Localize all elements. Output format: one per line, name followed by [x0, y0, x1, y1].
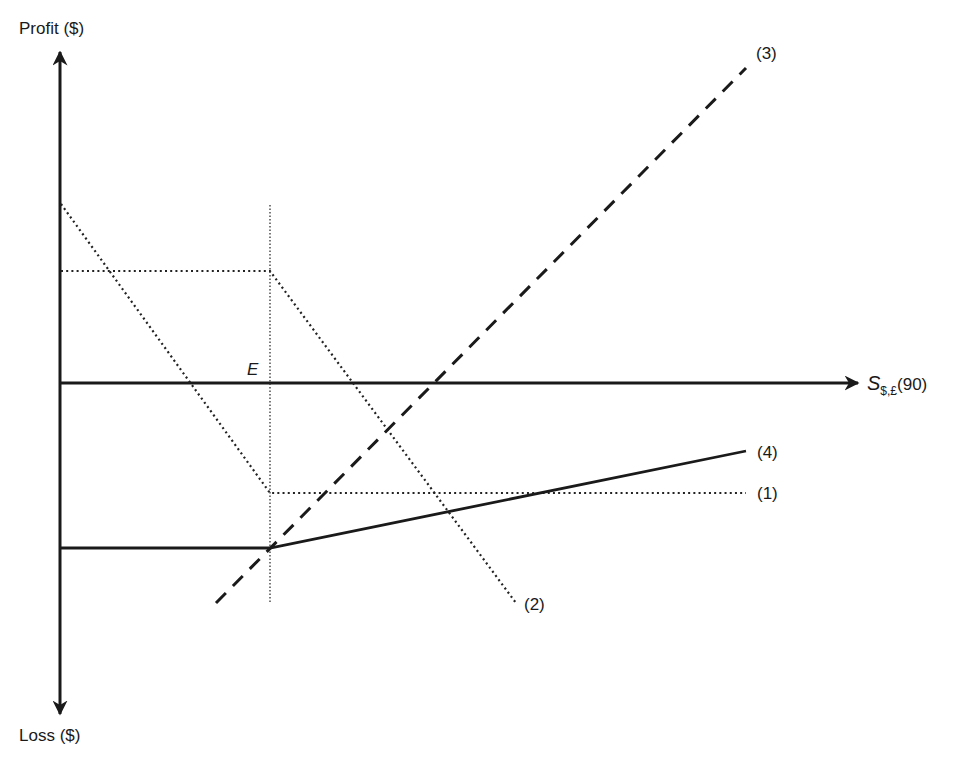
series-line-4 [61, 451, 746, 548]
series-label-2: (2) [524, 595, 545, 614]
x-axis-label-main: S [867, 372, 881, 394]
x-axis-label-suffix: (90) [897, 375, 927, 394]
y-axis-label-loss: Loss ($) [19, 726, 80, 745]
payoff-diagram: Profit ($) Loss ($) S$,£(90) E (3) (4) (… [0, 0, 957, 768]
series-line-2 [61, 271, 516, 603]
x-axis-label-subscript: $,£ [880, 384, 897, 398]
strike-label-e: E [247, 360, 259, 379]
series-line-3 [216, 68, 746, 603]
y-axis-label-profit: Profit ($) [19, 19, 84, 38]
series-label-4: (4) [757, 443, 778, 462]
series-label-1: (1) [757, 484, 778, 503]
x-axis-label: S$,£(90) [867, 372, 927, 398]
series-label-3: (3) [756, 44, 777, 63]
